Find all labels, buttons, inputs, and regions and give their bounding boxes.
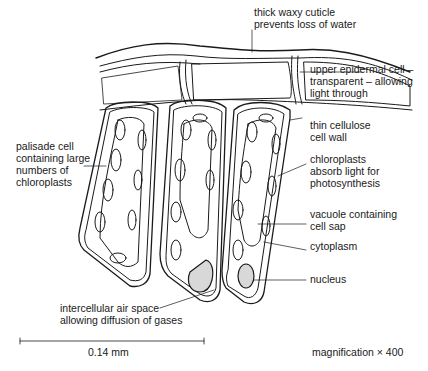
label-epidermal-cell: upper epidermal cell – transparent – all… (310, 63, 413, 99)
nucleus-cell-2 (188, 260, 212, 292)
palisade-cell-1 (79, 102, 158, 287)
scale-bar-label: 0.14 mm (88, 346, 129, 358)
label-vacuole: vacuole containing cell sap (310, 208, 397, 232)
label-air-space: intercellular air space allowing diffusi… (60, 302, 182, 326)
label-cytoplasm: cytoplasm (310, 240, 357, 252)
label-cuticle: thick waxy cuticle prevents loss of wate… (254, 6, 356, 30)
palisade-cell-2 (160, 100, 226, 301)
scale-bar (20, 338, 204, 344)
label-nucleus: nucleus (310, 273, 346, 285)
magnification-label: magnification × 400 (312, 346, 403, 358)
palisade-cell-3 (222, 103, 290, 304)
nucleus-cell-3 (238, 264, 254, 288)
leaf-palisade-diagram: thick waxy cuticle prevents loss of wate… (0, 0, 428, 371)
label-cell-wall: thin cellulose cell wall (310, 119, 371, 143)
label-chloroplasts: chloroplasts absorb light for photosynth… (310, 153, 380, 189)
label-palisade-cell: palisade cell containing large numbers o… (16, 140, 90, 188)
